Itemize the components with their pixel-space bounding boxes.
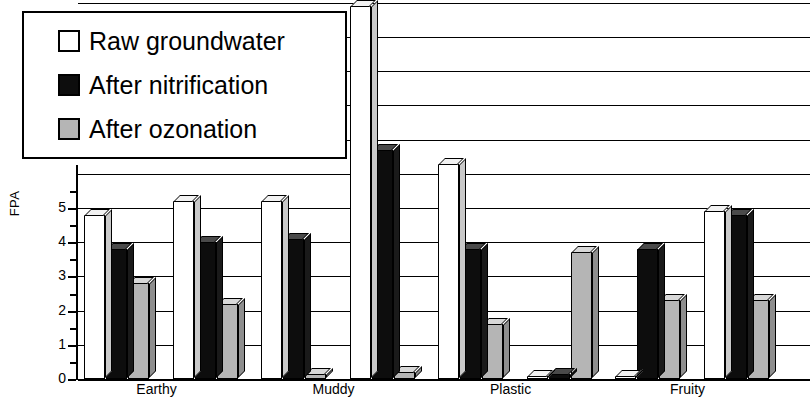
bar-side-face (304, 233, 311, 378)
bar-side-face (216, 236, 223, 378)
y-axis-tick-label: 5 (44, 200, 66, 214)
y-axis-title: FPA (7, 174, 22, 234)
bar-plastic-2-after-nitrification (549, 374, 570, 379)
bar-side-face (371, 0, 378, 378)
y-axis-tick-label: 3 (44, 268, 66, 282)
gridline (78, 3, 810, 4)
bar-side-face (282, 195, 289, 378)
bar-earthy-2-raw-groundwater (173, 201, 194, 379)
bar-side-face (393, 144, 400, 378)
bar-chart: 012345 FPA EarthyMuddyPlasticFruity Raw … (0, 0, 810, 401)
y-tick-minor (70, 191, 76, 193)
bar-side-face (105, 209, 112, 378)
legend-label-after-nitrification: After nitrification (89, 73, 268, 98)
x-axis-label-muddy: Muddy (313, 381, 355, 397)
bar-side-face (481, 243, 488, 378)
legend-item-after-nitrification: After nitrification (58, 63, 345, 107)
y-tick-minor (70, 225, 76, 227)
chart-legend: Raw groundwater After nitrification Afte… (22, 11, 347, 159)
bar-fruity-1-raw-groundwater (615, 376, 636, 379)
bar-side-face (769, 294, 776, 378)
y-tick-major (68, 311, 76, 313)
y-tick-major (68, 208, 76, 210)
bar-side-face (592, 246, 599, 378)
legend-item-raw-groundwater: Raw groundwater (58, 19, 345, 63)
legend-label-after-ozonation: After ozonation (89, 117, 257, 142)
bar-side-face (459, 158, 466, 378)
legend-swatch-raw-groundwater (58, 30, 80, 52)
bar-plastic-2-raw-groundwater (527, 376, 548, 379)
bar-side-face (725, 205, 732, 378)
bar-side-face (747, 209, 754, 378)
y-axis-tick-label: 1 (44, 337, 66, 351)
bar-muddy-2-raw-groundwater (350, 6, 371, 379)
y-tick-minor (70, 259, 76, 261)
bar-side-face (503, 318, 510, 378)
bar-earthy-1-raw-groundwater (84, 215, 105, 379)
y-tick-minor (70, 362, 76, 364)
bar-muddy-1-raw-groundwater (261, 201, 282, 379)
y-tick-major (68, 242, 76, 244)
y-axis-tick-label: 4 (44, 234, 66, 248)
y-tick-major (68, 379, 76, 381)
y-tick-minor (70, 294, 76, 296)
bar-fruity-2-raw-groundwater (704, 211, 725, 379)
bar-side-face (149, 277, 156, 378)
bar-side-face (127, 243, 134, 378)
y-axis-tick-label: 0 (44, 371, 66, 385)
y-axis-line (76, 165, 78, 380)
legend-label-raw-groundwater: Raw groundwater (89, 29, 285, 54)
y-tick-major (68, 276, 76, 278)
x-axis-label-fruity: Fruity (670, 381, 705, 397)
x-axis-label-earthy: Earthy (136, 381, 176, 397)
legend-swatch-after-ozonation (58, 118, 80, 140)
bar-side-face (194, 195, 201, 378)
y-axis-tick-label: 2 (44, 303, 66, 317)
bar-side-face (658, 243, 665, 378)
bar-side-face (680, 294, 687, 378)
bar-plastic-2-after-ozonation (571, 252, 592, 379)
y-tick-major (68, 345, 76, 347)
bar-fruity-1-after-nitrification (637, 249, 658, 379)
bar-muddy-1-after-ozonation (305, 374, 326, 379)
bar-side-face (238, 298, 245, 378)
legend-item-after-ozonation: After ozonation (58, 107, 345, 151)
y-tick-minor (70, 328, 76, 330)
legend-swatch-after-nitrification (58, 74, 80, 96)
x-axis-label-plastic: Plastic (490, 381, 531, 397)
bar-plastic-1-raw-groundwater (438, 164, 459, 379)
